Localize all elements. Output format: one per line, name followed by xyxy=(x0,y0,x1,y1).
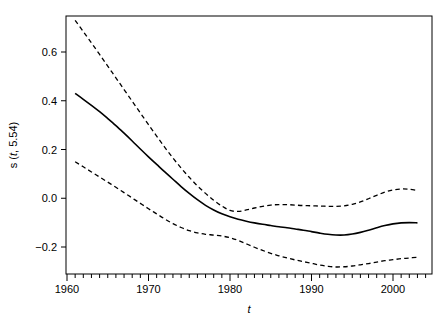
plot-box-border xyxy=(66,16,432,274)
data-series-layer xyxy=(75,20,417,267)
y-tick-label: 0.0 xyxy=(42,192,57,204)
x-tick-label: 1980 xyxy=(218,283,242,295)
y-tick-label: 0.2 xyxy=(42,144,57,156)
y-tick-label: 0.6 xyxy=(42,46,57,58)
y-axis-tick-labels: −0.20.00.20.40.6 xyxy=(35,46,57,253)
x-axis-tick-labels: 19601970198019902000 xyxy=(55,283,405,295)
series-line-upper-confidence-band xyxy=(75,20,417,211)
x-tick-label: 1990 xyxy=(299,283,323,295)
series-line-fit xyxy=(75,93,417,235)
x-axis-minor-ticks xyxy=(75,274,425,278)
x-tick-label: 2000 xyxy=(381,283,405,295)
chart-canvas: −0.20.00.20.40.6 19601970198019902000 t … xyxy=(0,0,445,325)
y-tick-label: 0.4 xyxy=(42,95,57,107)
plot-frame xyxy=(66,16,432,274)
series-line-lower-confidence-band xyxy=(75,162,417,267)
chart-figure: −0.20.00.20.40.6 19601970198019902000 t … xyxy=(0,0,445,325)
x-tick-label: 1970 xyxy=(136,283,160,295)
x-tick-label: 1960 xyxy=(55,283,79,295)
x-axis-title: t xyxy=(247,303,251,315)
y-axis-title: s (t, 5.54) xyxy=(7,122,19,168)
y-axis-ticks xyxy=(61,52,66,247)
y-tick-label: −0.2 xyxy=(35,241,57,253)
